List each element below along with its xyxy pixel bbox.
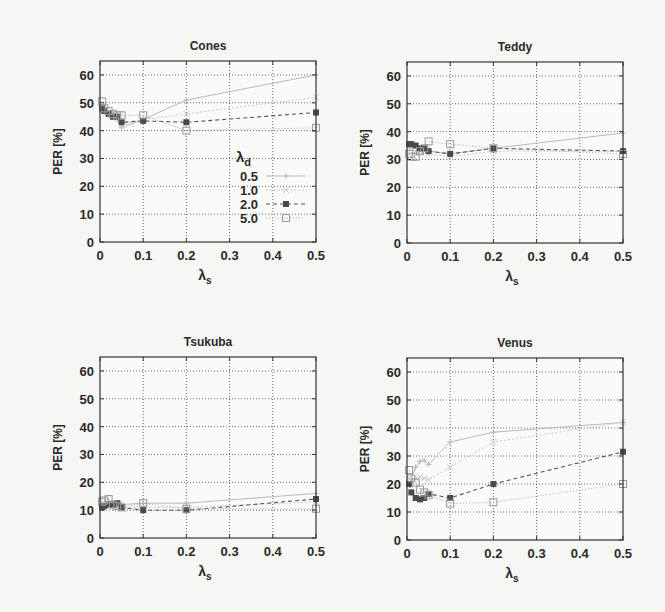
y-tick-label: 20 — [80, 475, 94, 490]
plot-area — [100, 357, 316, 538]
y-axis-label: PER [%] — [51, 424, 65, 471]
x-tick-label: 0.4 — [264, 544, 283, 559]
y-tick-label: 20 — [80, 179, 94, 194]
star-marker-icon — [426, 148, 432, 154]
y-tick-label: 30 — [387, 152, 401, 167]
y-tick-label: 10 — [80, 207, 94, 222]
legend-label: 1.0 — [240, 183, 258, 198]
x-tick-label: 0.2 — [177, 248, 195, 263]
star-marker-icon — [408, 489, 414, 495]
y-tick-label: 30 — [387, 449, 401, 464]
x-tick-label: 0 — [403, 249, 410, 264]
star-marker-icon — [283, 201, 289, 207]
x-axis-label: λs — [505, 268, 519, 287]
y-tick-label: 20 — [387, 477, 401, 492]
y-tick-label: 40 — [80, 420, 94, 435]
star-marker-icon — [183, 119, 189, 125]
x-tick-label: 0 — [96, 544, 103, 559]
x-tick-label: 0.1 — [134, 248, 152, 263]
y-axis-label: PER [%] — [51, 128, 65, 175]
legend-label: 2.0 — [240, 197, 258, 212]
chart-tsukuba: 010203040506000.10.20.30.40.5TsukubaPER … — [51, 335, 325, 582]
x-axis-label: λs — [198, 563, 212, 582]
star-marker-icon — [447, 151, 453, 157]
x-tick-label: 0.1 — [441, 546, 459, 561]
x-tick-label: 0.5 — [307, 544, 325, 559]
chart-title: Tsukuba — [184, 335, 233, 349]
x-axis-label: λs — [505, 565, 519, 584]
x-tick-label: 0.2 — [484, 249, 502, 264]
chart-teddy: 010203040506000.10.20.30.40.5TeddyPER [%… — [358, 40, 632, 287]
y-tick-label: 10 — [387, 505, 401, 520]
x-tick-label: 0 — [403, 546, 410, 561]
x-tick-label: 0.2 — [484, 546, 502, 561]
y-tick-label: 40 — [387, 125, 401, 140]
y-tick-label: 50 — [387, 97, 401, 112]
x-tick-label: 0.4 — [571, 249, 590, 264]
star-marker-icon — [490, 481, 496, 487]
legend-label: 5.0 — [240, 211, 258, 226]
y-tick-label: 50 — [80, 96, 94, 111]
x-tick-label: 0.3 — [528, 546, 546, 561]
x-tick-label: 0.5 — [614, 546, 632, 561]
plot-area — [407, 358, 623, 540]
y-tick-label: 10 — [80, 503, 94, 518]
y-tick-label: 30 — [80, 447, 94, 462]
x-tick-label: 0.5 — [307, 248, 325, 263]
y-tick-label: 60 — [387, 69, 401, 84]
y-axis-label: PER [%] — [358, 129, 372, 176]
y-tick-label: 0 — [87, 531, 94, 546]
star-marker-icon — [140, 507, 146, 513]
y-tick-label: 60 — [80, 68, 94, 83]
legend-label: 0.5 — [240, 169, 258, 184]
x-tick-label: 0.1 — [441, 249, 459, 264]
y-tick-label: 30 — [80, 151, 94, 166]
x-tick-label: 0.4 — [264, 248, 283, 263]
y-tick-label: 40 — [80, 124, 94, 139]
x-axis-label: λs — [198, 267, 212, 286]
y-tick-label: 0 — [87, 235, 94, 250]
chart-title: Teddy — [498, 40, 533, 54]
y-tick-label: 50 — [387, 393, 401, 408]
y-tick-label: 60 — [387, 365, 401, 380]
y-tick-label: 20 — [387, 180, 401, 195]
x-tick-label: 0.2 — [177, 544, 195, 559]
x-tick-label: 0.5 — [614, 249, 632, 264]
y-tick-label: 10 — [387, 208, 401, 223]
y-tick-label: 50 — [80, 392, 94, 407]
x-tick-label: 0 — [96, 248, 103, 263]
x-tick-label: 0.3 — [221, 248, 239, 263]
y-tick-label: 0 — [394, 236, 401, 251]
y-tick-label: 0 — [394, 533, 401, 548]
x-tick-label: 0.3 — [528, 249, 546, 264]
y-axis-label: PER [%] — [358, 426, 372, 473]
chart-title: Venus — [497, 336, 533, 350]
chart-cones: 010203040506000.10.20.30.40.5ConesPER [%… — [51, 39, 325, 286]
x-tick-label: 0.3 — [221, 544, 239, 559]
star-marker-icon — [119, 119, 125, 125]
chart-venus: 010203040506000.10.20.30.40.5VenusPER [%… — [358, 336, 632, 584]
chart-title: Cones — [190, 39, 227, 53]
x-tick-label: 0.4 — [571, 546, 590, 561]
x-tick-label: 0.1 — [134, 544, 152, 559]
y-tick-label: 40 — [387, 421, 401, 436]
y-tick-label: 60 — [80, 364, 94, 379]
